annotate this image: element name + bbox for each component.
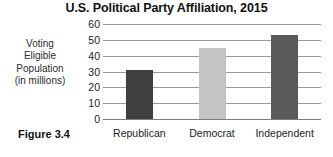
y-axis-title: Voting Eligible Population (in millions) [2,38,78,88]
bar-independent [271,35,298,119]
chart-title: U.S. Political Party Affiliation, 2015 [0,1,333,15]
y-tick-label: 0 [78,114,100,124]
y-axis-title-line-1: Voting [2,38,78,50]
plot-area [103,24,321,119]
figure-caption: Figure 3.4 [6,128,82,140]
bar-republican [126,70,153,119]
y-axis-tick-labels: 6050403020100 [76,24,100,119]
y-tick-label: 30 [78,67,100,77]
y-tick-label: 10 [78,98,100,108]
y-tick-label: 50 [78,35,100,45]
bar-democrat [199,48,226,119]
figure-3-4: U.S. Political Party Affiliation, 2015 V… [0,0,333,157]
x-tick-label: Independent [248,127,321,139]
y-axis-title-line-3: Population [2,63,78,75]
y-tick-label: 40 [78,51,100,61]
gridline-60 [103,24,321,25]
gridline-0 [103,119,321,120]
y-tick-label: 20 [78,82,100,92]
y-axis-title-line-2: Eligible [2,50,78,62]
y-tick-label: 60 [78,19,100,29]
x-tick-label: Democrat [176,127,249,139]
y-axis-title-line-4: (in millions) [2,75,78,87]
x-tick-label: Republican [103,127,176,139]
